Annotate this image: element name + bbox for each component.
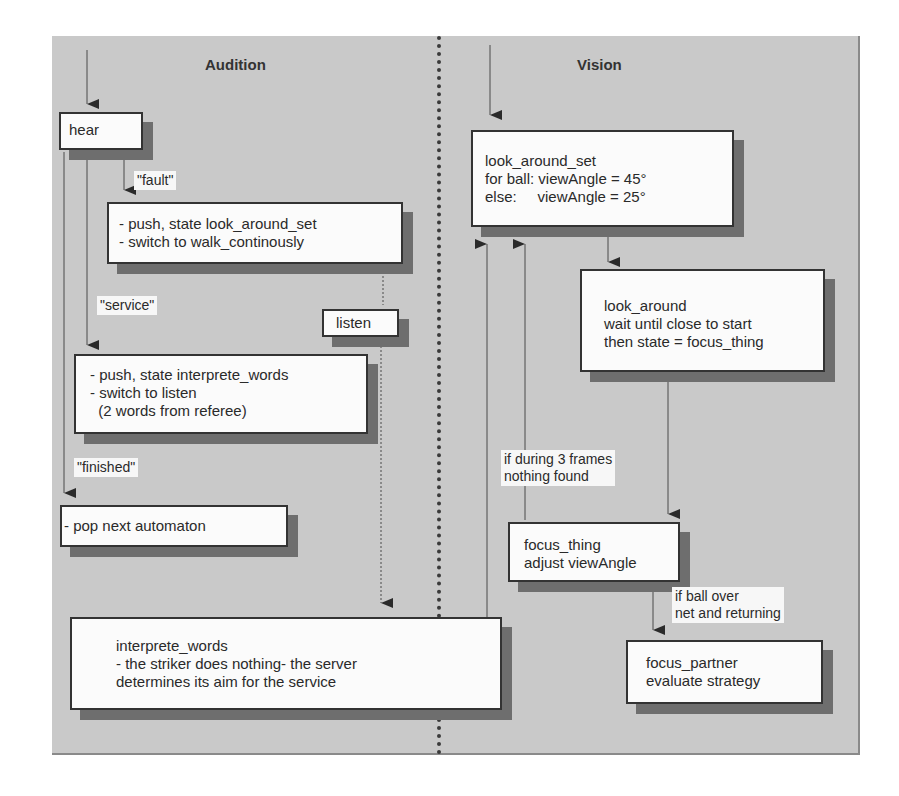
state-listen: listen (322, 309, 399, 337)
box-pop-next-automaton: - pop next automaton (60, 505, 288, 547)
state-look-around-set: look_around_set for ball: viewAngle = 45… (471, 130, 734, 227)
label-ball-over-net: if ball over net and returning (672, 587, 784, 623)
state-focus-thing: focus_thing adjust viewAngle (508, 522, 680, 582)
label-service: "service" (97, 296, 157, 315)
state-hear: hear (59, 112, 143, 150)
state-focus-partner: focus_partner evaluate strategy (626, 640, 823, 704)
box-push-interprete-words: - push, state interprete_words - switch … (74, 354, 368, 434)
box-push-look-around-set: - push, state look_around_set - switch t… (107, 202, 403, 264)
state-interprete-words: interprete_words - the striker does noth… (70, 617, 502, 710)
label-nothing-found: if during 3 frames nothing found (501, 450, 615, 486)
state-look-around: look_around wait until close to start th… (580, 269, 825, 372)
label-fault: "fault" (134, 171, 176, 190)
label-finished: "finished" (74, 458, 138, 477)
